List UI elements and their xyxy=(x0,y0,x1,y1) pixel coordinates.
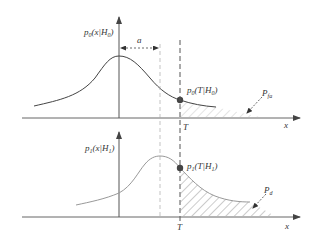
detection-area xyxy=(180,168,275,216)
bottom-x-axis-label: x xyxy=(284,221,289,231)
top-x-axis-label: x xyxy=(283,120,288,130)
pd-label: Pd xyxy=(263,185,274,196)
h0-pdf-curve xyxy=(34,56,216,107)
pfa-label: Pfa xyxy=(261,88,272,99)
pfa-pointer xyxy=(247,97,262,113)
bottom-y-axis-label: p1(x|H1) xyxy=(84,143,114,154)
h1-pdf-curve xyxy=(76,156,250,205)
top-panel: a p0(x|H0) p0(T|H0) Pfa x T xyxy=(22,17,300,132)
top-y-axis-label: p0(x|H0) xyxy=(83,27,113,38)
bottom-panel: p1(x|H1) p1(T|H1) Pd x T xyxy=(22,132,300,232)
top-threshold-label: T xyxy=(183,122,189,132)
h0-point-label: p0(T|H0) xyxy=(186,85,217,96)
offset-a-label: a xyxy=(137,35,142,45)
detection-threshold-diagram: a p0(x|H0) p0(T|H0) Pfa x T p1(x|H1) p1(… xyxy=(0,0,320,242)
h1-point-label: p1(T|H1) xyxy=(186,161,217,172)
bottom-threshold-label: T xyxy=(177,222,183,232)
h1-threshold-point xyxy=(177,165,183,171)
false-alarm-area xyxy=(180,100,260,117)
